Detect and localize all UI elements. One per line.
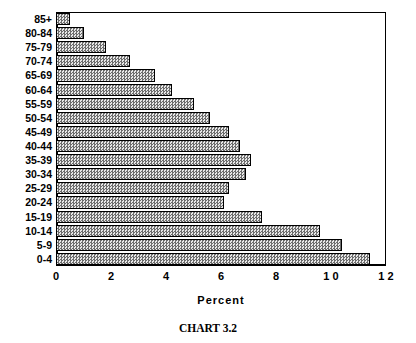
bar-row [56, 68, 386, 82]
bar-row [56, 252, 386, 266]
y-axis-tick-label: 70-74 [0, 54, 52, 68]
y-axis-labels: 85+80-8475-7970-7465-6960-6455-5950-5445… [0, 12, 52, 266]
x-axis-tick-label: 1 2 [378, 270, 393, 282]
y-axis-tick-label: 30-34 [0, 167, 52, 181]
bar [56, 225, 320, 237]
bar-row [56, 125, 386, 139]
bar [56, 27, 84, 39]
bar-row [56, 224, 386, 238]
bar-row [56, 83, 386, 97]
bar-row [56, 139, 386, 153]
bar [56, 239, 342, 251]
bar-row [56, 210, 386, 224]
bar-row [56, 238, 386, 252]
y-axis-tick-label: 25-29 [0, 181, 52, 195]
y-axis-tick-label: 15-19 [0, 210, 52, 224]
bar-series [56, 12, 386, 266]
y-axis-tick-label: 75-79 [0, 40, 52, 54]
x-axis-tick-label: 6 [218, 270, 224, 282]
x-axis-tick-label: 4 [163, 270, 169, 282]
bar [56, 41, 106, 53]
y-axis-tick-label: 85+ [0, 12, 52, 26]
bar-row [56, 54, 386, 68]
y-axis-tick-label: 50-54 [0, 111, 52, 125]
bar-row [56, 195, 386, 209]
y-axis-tick-label: 80-84 [0, 26, 52, 40]
y-axis-tick-label: 35-39 [0, 153, 52, 167]
bar [56, 84, 172, 96]
bar [56, 182, 229, 194]
y-axis-tick-label: 40-44 [0, 139, 52, 153]
y-axis-tick-label: 65-69 [0, 68, 52, 82]
x-axis-ticks: 024681 01 2 [56, 270, 386, 286]
x-axis-tick-label: 2 [108, 270, 114, 282]
bar-row [56, 167, 386, 181]
population-pyramid-chart: 85+80-8475-7970-7465-6960-6455-5950-5445… [0, 0, 416, 343]
bar-row [56, 40, 386, 54]
x-axis-tick-label: 1 0 [323, 270, 338, 282]
y-axis-tick-label: 0-4 [0, 252, 52, 266]
bar-row [56, 153, 386, 167]
x-axis-tick-label: 0 [53, 270, 59, 282]
bar [56, 69, 155, 81]
bar [56, 13, 70, 25]
y-axis-tick-label: 55-59 [0, 97, 52, 111]
y-axis-tick-label: 45-49 [0, 125, 52, 139]
bar [56, 98, 194, 110]
bar [56, 253, 370, 265]
bar [56, 211, 262, 223]
bar-row [56, 97, 386, 111]
x-axis-title: Percent [56, 294, 386, 306]
bar [56, 196, 224, 208]
bar [56, 154, 251, 166]
chart-caption: CHART 3.2 [0, 322, 416, 334]
bar-row [56, 111, 386, 125]
bar-row [56, 12, 386, 26]
bar-row [56, 181, 386, 195]
bar-row [56, 26, 386, 40]
bar [56, 168, 246, 180]
y-axis-tick-label: 5-9 [0, 238, 52, 252]
bar [56, 126, 229, 138]
bar [56, 140, 240, 152]
y-axis-tick-label: 20-24 [0, 195, 52, 209]
bar [56, 112, 210, 124]
y-axis-tick-label: 10-14 [0, 224, 52, 238]
x-axis-tick-label: 8 [273, 270, 279, 282]
bar [56, 55, 130, 67]
y-axis-tick-label: 60-64 [0, 83, 52, 97]
